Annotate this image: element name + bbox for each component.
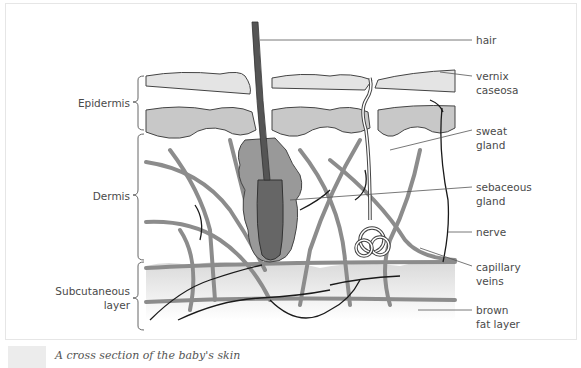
label-fat-line1: brown <box>476 303 520 317</box>
label-vernix-caseosa: vernix caseosa <box>476 69 518 97</box>
label-hair: hair <box>476 33 496 47</box>
sweat-gland <box>356 78 389 256</box>
label-brown-fat-layer: brown fat layer <box>476 303 520 331</box>
label-vernix-line2: caseosa <box>476 83 518 97</box>
layer-braces <box>133 76 144 330</box>
label-capillary-line2: veins <box>476 274 521 288</box>
label-nerve: nerve <box>476 225 506 239</box>
label-subcutaneous-line1: Subcutaneous <box>30 284 130 298</box>
figure-caption: A cross section of the baby's skin <box>55 349 240 362</box>
label-sweat-line1: sweat <box>476 124 507 138</box>
label-subcutaneous-layer: Subcutaneous layer <box>30 284 130 312</box>
label-capillary-veins: capillary veins <box>476 260 521 288</box>
vernix-layer <box>146 70 455 94</box>
label-hair-text: hair <box>476 33 496 47</box>
label-dermis: Dermis <box>52 189 130 203</box>
label-sebaceous-line2: gland <box>476 194 532 208</box>
label-vernix-line1: vernix <box>476 69 518 83</box>
label-epidermis: Epidermis <box>52 96 130 110</box>
label-capillary-line1: capillary <box>476 260 521 274</box>
label-sebaceous-gland: sebaceous gland <box>476 180 532 208</box>
label-fat-line2: fat layer <box>476 317 520 331</box>
epidermis-layer <box>146 106 455 139</box>
label-subcutaneous-line2: layer <box>30 298 130 312</box>
label-nerve-text: nerve <box>476 225 506 239</box>
label-sweat-gland: sweat gland <box>476 124 507 152</box>
caption-swatch <box>8 346 46 368</box>
label-sebaceous-line1: sebaceous <box>476 180 532 194</box>
label-sweat-line2: gland <box>476 138 507 152</box>
figure-caption-bar: A cross section of the baby's skin <box>5 346 575 368</box>
